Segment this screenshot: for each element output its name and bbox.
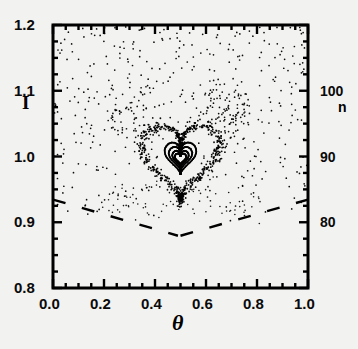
chaotic-point	[162, 203, 164, 205]
chaotic-point	[229, 123, 231, 125]
separatrix-band-point	[191, 184, 193, 186]
chaotic-point	[234, 96, 236, 98]
chaotic-point	[235, 120, 237, 122]
chaotic-point	[154, 27, 156, 29]
separatrix-band-point	[152, 134, 154, 136]
chaotic-point	[73, 172, 75, 174]
chaotic-point	[54, 156, 56, 158]
separatrix-band-point	[152, 166, 154, 168]
separatrix-band-point	[149, 159, 151, 161]
chaotic-point	[240, 95, 242, 97]
separatrix-band-point	[164, 123, 166, 125]
chaotic-point	[134, 118, 136, 120]
chaotic-point	[238, 95, 240, 97]
chaotic-point	[114, 129, 116, 131]
chaotic-point	[125, 26, 127, 28]
chaotic-point	[78, 163, 80, 165]
separatrix-band-point	[203, 166, 205, 168]
chaotic-point	[122, 93, 124, 95]
separatrix-band-point	[145, 157, 147, 159]
chaotic-point	[131, 110, 133, 112]
chaotic-point	[156, 184, 158, 186]
chaotic-point	[120, 111, 122, 113]
chaotic-point	[132, 194, 134, 196]
chaotic-point	[274, 57, 276, 59]
separatrix-band-point	[211, 169, 213, 171]
chaotic-point	[209, 53, 211, 55]
chaotic-point	[83, 36, 85, 38]
chaotic-point	[224, 119, 226, 121]
chaotic-point	[179, 95, 181, 97]
chaotic-point	[193, 191, 195, 193]
chaotic-point	[235, 89, 237, 91]
chaotic-point	[209, 93, 211, 95]
chaotic-point	[105, 96, 107, 98]
x-axis-label: θ	[172, 312, 183, 334]
separatrix-band-point	[148, 126, 150, 128]
chaotic-point	[193, 213, 195, 215]
fixed-point	[160, 177, 163, 180]
separatrix-band-point	[141, 156, 143, 158]
chaotic-point	[217, 34, 219, 36]
chaotic-point	[229, 43, 231, 45]
chaotic-point	[144, 130, 146, 132]
chaotic-point	[87, 88, 89, 90]
chaotic-point	[153, 170, 155, 172]
chaotic-point	[113, 192, 115, 194]
chaotic-point	[140, 74, 142, 76]
chaotic-point	[191, 69, 193, 71]
chaotic-point	[84, 117, 86, 119]
separatrix-band-point	[195, 125, 197, 127]
chaotic-point	[128, 109, 130, 111]
chaotic-point	[279, 162, 281, 164]
chaotic-point	[295, 83, 297, 85]
chaotic-point	[63, 153, 65, 155]
separatrix-band-point	[183, 199, 185, 201]
chaotic-point	[117, 193, 119, 195]
chaotic-point	[138, 29, 140, 31]
separatrix-band-point	[176, 134, 178, 136]
chaotic-point	[243, 123, 245, 125]
separatrix-band-point	[193, 126, 195, 128]
chaotic-point	[230, 137, 232, 139]
separatrix-band-point	[156, 127, 158, 129]
chaotic-point	[231, 118, 233, 120]
chaotic-point	[115, 97, 117, 99]
separatrix-band-point	[197, 120, 199, 122]
separatrix-band-point	[218, 132, 220, 134]
chaotic-point	[256, 28, 258, 30]
separatrix-band-point	[168, 178, 170, 180]
chaotic-point	[280, 90, 282, 92]
chaotic-point	[115, 173, 117, 175]
chaotic-point	[225, 174, 227, 176]
chaotic-point	[243, 177, 245, 179]
chaotic-point	[211, 119, 213, 121]
separatrix-band-point	[222, 143, 224, 145]
chaotic-point	[109, 193, 111, 195]
chaotic-point	[112, 119, 114, 121]
chaotic-point	[146, 187, 148, 189]
chaotic-point	[132, 48, 134, 50]
separatrix-band-point	[177, 196, 179, 198]
chaotic-point	[275, 76, 277, 78]
chaotic-point	[145, 184, 147, 186]
chaotic-point	[216, 89, 218, 91]
chaotic-point	[57, 49, 59, 51]
separatrix-band-point	[215, 153, 217, 155]
chaotic-point	[88, 97, 90, 99]
separatrix-band-point	[181, 133, 183, 135]
chaotic-point	[98, 195, 100, 197]
chaotic-point	[239, 201, 241, 203]
chaotic-point	[99, 144, 101, 146]
separatrix-band-point	[197, 180, 199, 182]
x-tick-label: 0.6	[192, 296, 213, 311]
chaotic-point	[121, 132, 123, 134]
separatrix-band-point	[159, 128, 161, 130]
chaotic-point	[156, 80, 158, 82]
chaotic-point	[78, 88, 80, 90]
chaotic-point	[135, 130, 137, 132]
separatrix-band-point	[210, 163, 212, 165]
chaotic-point	[259, 85, 261, 87]
chaotic-point	[245, 93, 247, 95]
separatrix-band-point	[142, 135, 144, 137]
